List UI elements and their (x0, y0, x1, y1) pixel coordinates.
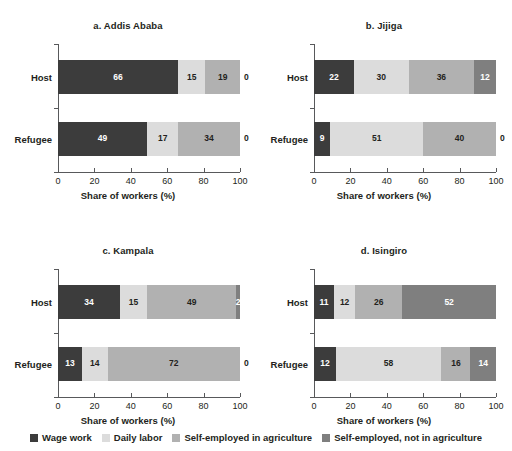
bar-segment-value: 34 (84, 298, 93, 307)
x-tick-a-4 (204, 168, 205, 172)
bar-segment-value: 58 (384, 359, 393, 368)
bar-segment-value: 19 (218, 73, 227, 82)
bar-row: Refugee4917340 (58, 122, 240, 156)
bar-segment: 34 (58, 285, 120, 319)
x-axis-line-a (58, 172, 240, 173)
y-category-label: Refugee (271, 133, 308, 144)
bar-segment: 15 (178, 60, 205, 94)
legend-item-2: Self-employed in agriculture (172, 432, 312, 443)
bar-segment-value: 12 (340, 298, 349, 307)
bar-segment-value: 22 (329, 73, 338, 82)
x-tick-label-b-5: 100 (488, 176, 503, 186)
legend-item-1: Daily labor (102, 432, 163, 443)
panel-a: a. Addis Ababa020406080100Host6615190Ref… (0, 0, 256, 225)
bar-segment-value-zero: 0 (500, 134, 505, 143)
y-category-label: Host (287, 72, 308, 83)
bar-segment: 13 (58, 347, 82, 381)
legend-swatch-icon (172, 434, 180, 442)
legend-label: Daily labor (114, 432, 163, 443)
x-tick-label-d-2: 40 (382, 401, 392, 411)
bar-segment-value: 15 (129, 298, 138, 307)
legend-swatch-icon (102, 434, 110, 442)
y-category-label: Refugee (271, 358, 308, 369)
bar-segment: 12 (314, 347, 336, 381)
legend-label: Wage work (42, 432, 92, 443)
bar-segment: 12 (474, 60, 496, 94)
x-tick-label-d-1: 20 (345, 401, 355, 411)
x-tick-d-1 (350, 393, 351, 397)
x-tick-d-3 (423, 393, 424, 397)
legend-item-0: Wage work (30, 432, 92, 443)
bar-segment-value: 14 (478, 359, 487, 368)
x-tick-label-b-4: 80 (455, 176, 465, 186)
bar-segment-value: 72 (169, 359, 178, 368)
bar-segment: 49 (58, 122, 147, 156)
x-tick-a-1 (94, 168, 95, 172)
x-tick-b-0 (314, 168, 315, 172)
x-axis-line-b (314, 172, 496, 173)
x-tick-c-1 (94, 393, 95, 397)
bar-segment-value-zero: 0 (244, 73, 249, 82)
bar-segment-value: 2 (236, 298, 241, 307)
x-axis-label-c: Share of workers (%) (0, 415, 256, 426)
y-category-label: Refugee (15, 133, 52, 144)
bar-segment: 720 (108, 347, 240, 381)
bar-segment: 17 (147, 122, 178, 156)
x-axis-line-c (58, 397, 240, 398)
bar-segment: 11 (314, 285, 334, 319)
x-tick-label-a-2: 40 (126, 176, 136, 186)
x-tick-d-4 (460, 393, 461, 397)
bar-segment-value: 15 (187, 73, 196, 82)
plot-area-d: 020406080100Host11122652Refugee12581614 (314, 269, 496, 397)
bar-row: Host6615190 (58, 60, 240, 94)
x-tick-label-b-3: 60 (418, 176, 428, 186)
x-axis-label-a: Share of workers (%) (0, 190, 256, 201)
bar-segment-value: 66 (113, 73, 122, 82)
bar-segment-value: 13 (65, 359, 74, 368)
x-tick-label-c-5: 100 (232, 401, 247, 411)
bar-segment: 52 (402, 285, 496, 319)
bar-row: Host11122652 (314, 285, 496, 319)
x-axis-label-d: Share of workers (%) (256, 415, 512, 426)
y-tick-b-1 (310, 108, 314, 109)
bar-segment-value: 51 (372, 134, 381, 143)
bar-segment-value: 16 (451, 359, 460, 368)
x-tick-label-c-4: 80 (199, 401, 209, 411)
legend-swatch-icon (322, 434, 330, 442)
x-tick-label-b-0: 0 (311, 176, 316, 186)
x-tick-a-0 (58, 168, 59, 172)
bar-segment: 16 (441, 347, 470, 381)
bar-segment-value-zero: 0 (244, 134, 249, 143)
bar-segment-value: 26 (374, 298, 383, 307)
y-tick-b-0 (310, 44, 314, 45)
x-tick-label-a-0: 0 (55, 176, 60, 186)
y-tick-c-1 (54, 333, 58, 334)
bar-segment-value: 17 (158, 134, 167, 143)
x-tick-b-3 (423, 168, 424, 172)
bar-row: Host22303612 (314, 60, 496, 94)
bar-segment-value: 9 (320, 134, 325, 143)
y-category-label: Refugee (15, 358, 52, 369)
x-tick-label-a-5: 100 (232, 176, 247, 186)
panel-title-b: b. Jijiga (256, 20, 512, 31)
bar-segment-value: 14 (90, 359, 99, 368)
panel-title-c: c. Kampala (0, 245, 256, 256)
bar-segment: 15 (120, 285, 147, 319)
y-category-label: Host (31, 72, 52, 83)
bar-segment: 58 (336, 347, 442, 381)
x-tick-label-d-3: 60 (418, 401, 428, 411)
x-tick-label-a-4: 80 (199, 176, 209, 186)
x-tick-a-5 (240, 168, 241, 172)
bar-segment: 12 (334, 285, 356, 319)
x-axis-line-d (314, 397, 496, 398)
x-tick-c-5 (240, 393, 241, 397)
x-tick-label-c-0: 0 (55, 401, 60, 411)
panel-title-a: a. Addis Ababa (0, 20, 256, 31)
x-tick-label-c-2: 40 (126, 401, 136, 411)
bar-segment-value: 40 (455, 134, 464, 143)
y-tick-d-0 (310, 269, 314, 270)
x-tick-a-3 (167, 168, 168, 172)
x-tick-d-2 (387, 393, 388, 397)
bar-segment-value: 30 (377, 73, 386, 82)
x-tick-a-2 (131, 168, 132, 172)
